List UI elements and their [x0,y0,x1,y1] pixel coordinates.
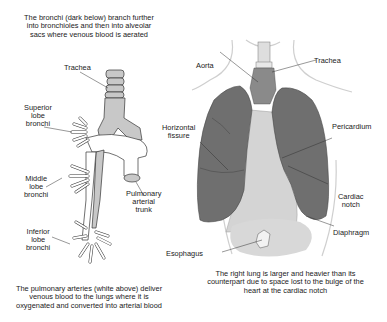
anatomy-illustration [0,0,387,322]
bronchial-tree [70,70,147,262]
label-trachea-right: Trachea [314,57,341,65]
label-line: trunk [126,206,161,214]
label-esophagus: Esophagus [166,250,203,258]
label-line: bronchi [24,191,48,199]
label-line: bronchi [24,120,52,128]
label-trachea-left: Trachea [64,64,91,72]
aorta-shape [250,68,276,104]
label-cardiac-notch: Cardiac notch [338,193,363,209]
label-line: fissure [162,132,195,140]
label-diaphragm: Diaphragm [333,229,369,237]
label-superior-lobe-bronchi: Superior lobe bronchi [24,104,52,129]
label-middle-lobe-bronchi: Middle lobe bronchi [24,175,48,200]
label-horizontal-fissure: Horizontal fissure [162,124,195,140]
label-pericardium: Pericardium [332,123,371,131]
diaphragm-shape [230,219,312,257]
label-inferior-lobe-bronchi: Inferior lobe bronchi [26,228,50,253]
label-aorta: Aorta [196,62,214,70]
label-line: notch [338,201,363,209]
label-pulmonary-arterial-trunk: Pulmonary arterial trunk [126,190,161,215]
label-line: bronchi [26,244,50,252]
